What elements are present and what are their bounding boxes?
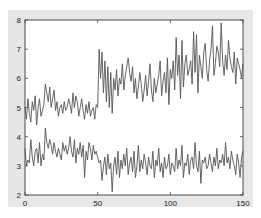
y-tick-label: 7: [17, 45, 22, 54]
x-tick-label: 0: [23, 199, 28, 208]
y-tick-label: 3: [17, 162, 22, 171]
x-tick-label: 100: [164, 199, 178, 208]
x-tick-label: 50: [93, 199, 102, 208]
x-tick-label: 150: [236, 199, 250, 208]
y-tick-label: 6: [17, 74, 22, 83]
y-tick-label: 8: [17, 16, 22, 25]
y-tick-label: 2: [17, 191, 22, 200]
y-tick-label: 4: [17, 133, 22, 142]
y-tick-label: 5: [17, 104, 22, 113]
line-chart: 2345678050100150: [0, 0, 261, 218]
